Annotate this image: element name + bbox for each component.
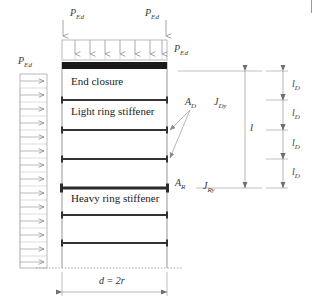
segment-length-label-4: lD [292, 167, 300, 180]
figure-canvas: PEd PEd PEd PEd End closure Light ring s… [0, 0, 314, 307]
cylinder-walls [62, 62, 167, 268]
stiffener-bar-5 [62, 212, 167, 219]
axial-load-left-label: PEd [70, 8, 84, 21]
page-corner-mark [311, 0, 312, 13]
segment-length-label-2: lD [292, 108, 300, 121]
axial-load-right-label: PEd [145, 8, 159, 21]
end-closure-label: End closure [71, 76, 123, 87]
heavy-ring-stiffener-label: Heavy ring stiffener [71, 193, 159, 204]
lateral-pressure-box [20, 74, 47, 268]
top-pressure-box [62, 40, 167, 60]
segment-length-label-1: lD [292, 79, 300, 92]
end-closure-plate [62, 62, 167, 69]
stiffener-bar-1 [62, 97, 167, 104]
stiffener-bar-3 [62, 156, 167, 163]
segment-length-label-3: lD [292, 138, 300, 151]
stiffener-bar-2 [62, 127, 167, 134]
light-stiffener-inertia-label: JDy [214, 97, 227, 110]
ring-stiffener-bars [61, 97, 168, 247]
axial-load-arrows [63, 20, 166, 36]
heavy-stiffener-area-label: AR [175, 178, 185, 191]
ad-leader-lines [170, 110, 190, 158]
heavy-stiffener-inertia-label: JRy [203, 181, 215, 194]
diagram-vector-layer [0, 0, 314, 307]
distributed-load-label: PEd [174, 44, 188, 57]
overall-length-label: l [250, 122, 253, 133]
lateral-pressure-label: PEd [18, 56, 32, 69]
segment-dimension-chain [266, 71, 288, 188]
stiffener-bar-6 [62, 240, 167, 247]
light-ring-stiffener-label: Light ring stiffener [71, 106, 155, 117]
diameter-label: d = 2r [99, 276, 125, 286]
light-stiffener-area-label: AD [185, 97, 196, 110]
